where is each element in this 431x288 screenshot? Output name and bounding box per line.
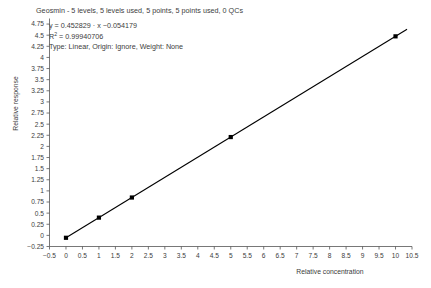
data-point xyxy=(229,135,233,139)
x-tick-label: 9.5 xyxy=(374,252,383,259)
x-tick-label: 1.5 xyxy=(111,252,120,259)
x-tick-label: 0 xyxy=(64,252,68,259)
y-tick-label: 1.75 xyxy=(31,154,44,161)
x-tick-label: 7 xyxy=(295,252,299,259)
data-point xyxy=(130,195,134,199)
y-tick-label: 4 xyxy=(40,54,44,61)
x-tick-labels: −0.500.511.522.533.544.555.566.577.588.5… xyxy=(43,252,419,259)
y-tick-marks xyxy=(47,24,50,246)
regression-fit-line xyxy=(66,29,407,238)
y-tick-label: 4.75 xyxy=(31,20,44,27)
x-tick-label: 9 xyxy=(361,252,365,259)
x-tick-label: 0.5 xyxy=(78,252,87,259)
x-tick-label: 7.5 xyxy=(309,252,318,259)
data-point xyxy=(64,236,68,240)
x-tick-label: 10.5 xyxy=(406,252,419,259)
x-tick-label: 3.5 xyxy=(177,252,186,259)
y-tick-label: 0.75 xyxy=(31,198,44,205)
y-tick-label: 2.5 xyxy=(35,121,44,128)
x-tick-label: −0.5 xyxy=(43,252,56,259)
y-tick-label: 2.75 xyxy=(31,109,44,116)
x-tick-marks xyxy=(50,247,413,250)
x-tick-label: 2 xyxy=(130,252,134,259)
x-tick-label: 4.5 xyxy=(210,252,219,259)
y-tick-label: 0.5 xyxy=(35,210,44,217)
calibration-curve-screenshot: Geosmin - 5 levels, 5 levels used, 5 poi… xyxy=(0,0,431,288)
y-tick-label: 3.5 xyxy=(35,76,44,83)
y-tick-label: 3 xyxy=(40,98,44,105)
y-axis-group: −0.2500.250.50.7511.251.51.7522.252.52.7… xyxy=(27,19,49,250)
y-tick-label: 4.5 xyxy=(35,32,44,39)
data-point xyxy=(97,216,101,220)
y-tick-label: 2 xyxy=(40,143,44,150)
x-tick-label: 6 xyxy=(262,252,266,259)
x-tick-label: 8.5 xyxy=(342,252,351,259)
x-tick-label: 10 xyxy=(392,252,400,259)
x-tick-label: 3 xyxy=(163,252,167,259)
x-tick-label: 1 xyxy=(97,252,101,259)
y-tick-labels: −0.2500.250.50.7511.251.51.7522.252.52.7… xyxy=(27,20,44,249)
x-tick-label: 8 xyxy=(328,252,332,259)
y-tick-label: 0 xyxy=(40,232,44,239)
x-tick-label: 5 xyxy=(229,252,233,259)
y-tick-label: 3.25 xyxy=(31,87,44,94)
y-tick-label: 4.25 xyxy=(31,43,44,50)
y-tick-label: −0.25 xyxy=(27,243,44,250)
y-tick-label: 1.5 xyxy=(35,165,44,172)
x-axis-group: −0.500.511.522.533.544.555.566.577.588.5… xyxy=(43,247,419,259)
data-point xyxy=(393,34,397,38)
y-tick-label: 1 xyxy=(40,187,44,194)
x-tick-label: 5.5 xyxy=(243,252,252,259)
x-tick-label: 2.5 xyxy=(144,252,153,259)
y-tick-label: 1.25 xyxy=(31,176,44,183)
plot-area: −0.2500.250.50.7511.251.51.7522.252.52.7… xyxy=(0,0,431,288)
y-tick-label: 2.25 xyxy=(31,132,44,139)
x-tick-label: 6.5 xyxy=(276,252,285,259)
y-tick-label: 0.25 xyxy=(31,221,44,228)
x-tick-label: 4 xyxy=(196,252,200,259)
y-tick-label: 3.75 xyxy=(31,65,44,72)
